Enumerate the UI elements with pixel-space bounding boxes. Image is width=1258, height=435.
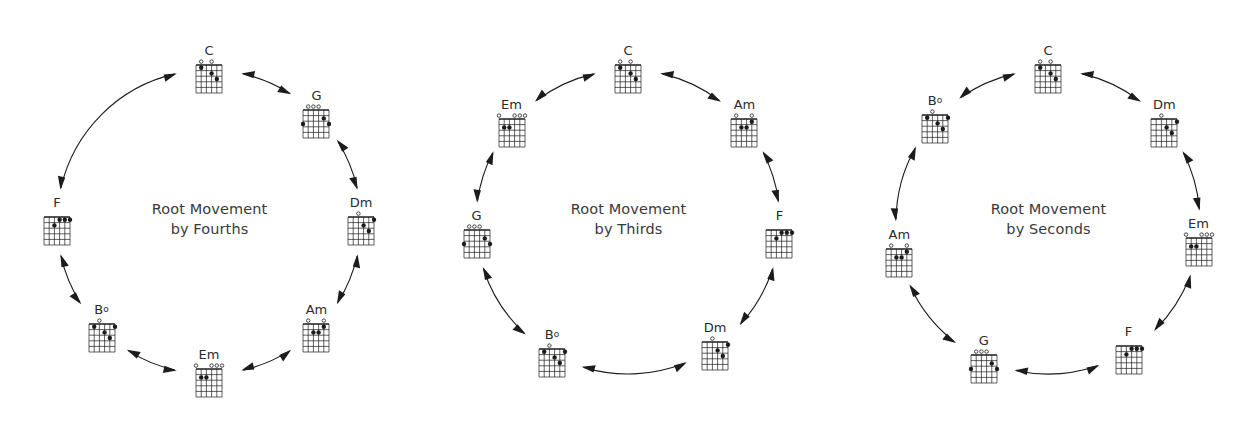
chord-diagram-Dm (1148, 112, 1181, 150)
open-string-marker (220, 364, 224, 368)
open-string-marker (518, 114, 522, 118)
finger-dot (63, 218, 67, 222)
finger-dot (1189, 244, 1193, 248)
circle-diagram-fourths: Root Movementby FourthsCGDmAmEmBoF (0, 0, 419, 435)
finger-dot (790, 231, 794, 235)
finger-dot (102, 331, 106, 335)
open-string-marker (472, 225, 476, 229)
open-string-marker (194, 364, 198, 368)
chord-diagram-Am (300, 317, 333, 355)
finger-dot (1048, 71, 1052, 75)
finger-dot (322, 325, 326, 329)
chord-label-Bdim: Bo (94, 303, 108, 316)
chord-diagram-C (1032, 58, 1065, 96)
open-string-marker (210, 364, 214, 368)
arrowhead (349, 177, 357, 190)
finger-dot (372, 218, 376, 222)
open-string-marker (199, 60, 203, 64)
open-string-marker (357, 212, 361, 216)
chord-label-Dm: Dm (704, 321, 727, 334)
chord-diagram-Bdim (85, 317, 118, 355)
finger-dot (542, 349, 546, 353)
chord-diagram-G (967, 348, 1000, 386)
chord-diagram-Em (1182, 231, 1215, 269)
chord-fretboard-grid (728, 112, 761, 150)
finger-dot (946, 116, 950, 120)
diminished-symbol-icon: o (554, 329, 560, 339)
open-string-marker (312, 104, 316, 108)
open-string-marker (931, 110, 935, 114)
chord-label-Am: Am (889, 228, 911, 241)
chord-label-C: C (623, 44, 632, 57)
finger-dot (1129, 346, 1133, 350)
chord-diagram-G (460, 223, 493, 261)
chord-label-Am: Am (734, 98, 756, 111)
open-string-marker (1199, 233, 1203, 237)
finger-dot (1134, 346, 1138, 350)
finger-dot (563, 349, 567, 353)
finger-dot (502, 125, 506, 129)
open-string-marker (985, 350, 989, 354)
open-string-marker (890, 243, 894, 247)
open-string-marker (317, 104, 321, 108)
chord-fretboard-grid (1032, 58, 1065, 96)
chord-fretboard-grid (300, 317, 333, 355)
open-string-marker (905, 243, 909, 247)
finger-dot (1038, 66, 1042, 70)
finger-dot (209, 71, 213, 75)
diminished-symbol-icon: o (103, 305, 109, 315)
finger-dot (487, 242, 491, 246)
open-string-marker (974, 350, 978, 354)
chord-diagram-Em (193, 362, 226, 400)
chord-fretboard-grid (345, 210, 378, 248)
chord-diagram-Bdim (919, 108, 952, 146)
finger-dot (361, 223, 365, 227)
arrowhead (1154, 318, 1165, 331)
chord-label-G: G (979, 334, 989, 347)
open-string-marker (979, 350, 983, 354)
arrowhead (486, 151, 494, 165)
chord-label-Em: Em (501, 98, 522, 111)
finger-dot (482, 236, 486, 240)
open-string-marker (477, 225, 481, 229)
finger-dot (905, 249, 909, 253)
chord-fretboard-grid (41, 210, 74, 248)
finger-dot (785, 231, 789, 235)
chord-label-Bdim: Bo (545, 328, 559, 341)
chord-label-G: G (311, 89, 321, 102)
connector-arc (483, 269, 524, 333)
chord-diagram-Em (495, 112, 528, 150)
open-string-marker (1210, 233, 1214, 237)
arrowhead (1183, 151, 1194, 163)
finger-dot (1194, 244, 1198, 248)
chord-diagram-C (612, 58, 645, 96)
chord-diagram-F (763, 223, 796, 261)
chord-label-Am: Am (306, 303, 328, 316)
finger-dot (1165, 125, 1169, 129)
finger-dot (750, 120, 754, 124)
finger-dot (52, 223, 56, 227)
finger-dot (92, 325, 96, 329)
open-string-marker (711, 336, 715, 340)
finger-dot (1139, 346, 1143, 350)
open-string-marker (215, 364, 219, 368)
chord-diagram-Am (728, 112, 761, 150)
finger-dot (215, 77, 219, 81)
connector-arc (61, 74, 175, 188)
finger-dot (900, 255, 904, 259)
arrowhead (1003, 73, 1016, 81)
arrowhead (535, 90, 547, 102)
chord-label-Dm: Dm (1153, 98, 1176, 111)
arrowhead (1086, 365, 1099, 375)
finger-dot (716, 348, 720, 352)
arrowhead (58, 176, 65, 190)
finger-dot (895, 255, 899, 259)
diminished-symbol-icon: o (937, 96, 943, 106)
open-string-marker (1038, 60, 1042, 64)
chord-diagram-Bdim (536, 342, 569, 380)
finger-dot (745, 125, 749, 129)
finger-dot (507, 125, 511, 129)
finger-dot (322, 116, 326, 120)
finger-dot (204, 375, 208, 379)
finger-dot (775, 236, 779, 240)
